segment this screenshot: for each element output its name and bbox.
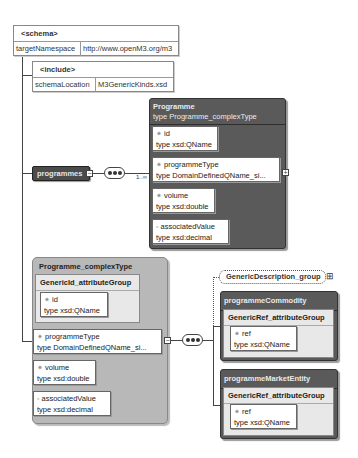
complextype-collapse-icon[interactable]: −: [164, 337, 171, 344]
seq2-to-commodity-line: [213, 326, 220, 327]
genericid-group-name: GenericId_attributeGroup: [36, 275, 139, 291]
programme-attr-programmetype[interactable]: ⁕programmeType type DomainDefinedQName_s…: [152, 157, 280, 182]
include-attr-value: M3GenericKinds.xsd: [96, 78, 169, 92]
cardinality-label: 1..∞: [136, 174, 147, 180]
attr-type: type xsd:double: [37, 373, 92, 384]
schema-attr-name: targetNamespace: [14, 42, 81, 56]
seq2-to-group-dotted-line: [213, 277, 214, 326]
complextype-attr-associatedvalue[interactable]: ▫associatedValue type xsd:decimal: [33, 391, 111, 416]
required-icon: ⁕: [37, 333, 43, 340]
include-attr-name: schemaLocation: [33, 78, 96, 92]
required-icon: ⁕: [37, 364, 43, 371]
attr-name: id: [52, 295, 58, 304]
genericdescription-expand-icon[interactable]: ⊞: [326, 270, 334, 282]
attr-name: id: [164, 129, 170, 138]
attr-type: type xsd:decimal: [156, 232, 225, 243]
required-icon: ⁕: [156, 130, 162, 137]
attr-type: type xsd:QName: [156, 139, 214, 150]
schema-attr-value: http://www.openM3.org/m3: [81, 42, 174, 56]
attr-type: type xsd:QName: [234, 417, 293, 428]
required-icon: ⁕: [156, 192, 162, 199]
optional-icon: ▫: [37, 395, 39, 402]
attr-name: ref: [242, 407, 251, 416]
required-icon: ⁕: [44, 296, 50, 303]
sequence-compositor-icon[interactable]: [104, 167, 125, 179]
include-declaration[interactable]: <include> schemaLocation M3GenericKinds.…: [32, 61, 174, 92]
programmes-element[interactable]: programmes: [32, 166, 90, 181]
optional-icon: ▫: [156, 223, 158, 230]
schema-trunk-line: [22, 55, 23, 341]
attr-name: volume: [164, 191, 188, 200]
attr-type: type xsd:decimal: [37, 404, 107, 415]
genericdescription-group-label: GenericDescription_group: [226, 272, 321, 281]
attr-name: volume: [45, 363, 69, 372]
schema-declaration[interactable]: <schema> targetNamespace http://www.open…: [13, 25, 179, 56]
sequence-compositor-icon-2[interactable]: [182, 334, 203, 346]
attr-type: type xsd:QName: [234, 339, 293, 350]
complextype-group-attr-id[interactable]: ⁕id type xsd:QName: [40, 292, 108, 317]
complextype-name: Programme_complexType: [33, 258, 167, 275]
programme-commodity-name: programmeCommodity: [224, 296, 307, 305]
attr-name: programmeType: [45, 332, 100, 341]
seq2-to-marketentity-line: [213, 405, 220, 406]
programme-attr-id[interactable]: ⁕id type xsd:QName: [152, 126, 218, 151]
programme-attr-volume[interactable]: ⁕volume type xsd:double: [152, 188, 215, 213]
schema-title: <schema>: [14, 26, 178, 42]
marketentity-group-name: GenericRef_attributeGroup: [224, 388, 333, 404]
attr-type: type xsd:double: [156, 201, 211, 212]
attr-name: associatedValue: [41, 394, 95, 403]
programmes-collapse-icon[interactable]: −: [86, 170, 93, 177]
programme-name: Programme: [153, 102, 282, 112]
required-icon: ⁕: [156, 161, 162, 168]
attr-name: associatedValue: [160, 222, 214, 231]
required-icon: ⁕: [234, 408, 240, 415]
programme-header: Programme type Programme_complexType: [150, 99, 285, 125]
include-connector-line: [22, 75, 32, 76]
attr-type: type xsd:QName: [44, 305, 104, 316]
complextype-attr-programmetype[interactable]: ⁕programmeType type DomainDefinedQName_s…: [33, 329, 162, 354]
attr-name: programmeType: [164, 160, 219, 169]
genericdescription-group[interactable]: GenericDescription_group: [219, 270, 326, 284]
complextype-attr-volume[interactable]: ⁕volume type xsd:double: [33, 360, 96, 385]
programme-marketentity-name: programmeMarketEntity: [224, 374, 310, 383]
programmes-label: programmes: [37, 169, 82, 178]
marketentity-attr-ref[interactable]: ⁕ref type xsd:QName: [230, 404, 297, 429]
attr-type: type DomainDefinedQName_si...: [37, 342, 158, 353]
commodity-attr-ref[interactable]: ⁕ref type xsd:QName: [230, 326, 297, 351]
attr-name: ref: [242, 329, 251, 338]
seq2-branch-vertical: [213, 326, 214, 405]
complextype-to-seq-line: [170, 340, 182, 341]
programme-type: type Programme_complexType: [153, 112, 282, 122]
attr-type: type DomainDefinedQName_si...: [156, 170, 276, 181]
required-icon: ⁕: [234, 330, 240, 337]
seq2-out-line: [202, 340, 213, 341]
programme-attr-associatedvalue[interactable]: ▫associatedValue type xsd:decimal: [152, 219, 229, 244]
programme-expand-icon[interactable]: +: [282, 169, 289, 176]
programmes-connector-line: [22, 173, 32, 174]
include-title: <include>: [33, 62, 173, 78]
commodity-group-name: GenericRef_attributeGroup: [224, 310, 333, 326]
